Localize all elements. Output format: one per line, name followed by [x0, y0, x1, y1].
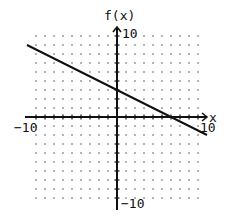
grid-dot [71, 89, 73, 91]
grid-dot [152, 98, 154, 100]
grid-dot [35, 197, 37, 199]
grid-dot [53, 170, 55, 172]
grid-dot [107, 80, 109, 82]
grid-dot [125, 143, 127, 145]
grid-dot [125, 125, 127, 127]
grid-dot [134, 53, 136, 55]
grid-dot [44, 35, 46, 37]
grid-dot [62, 53, 64, 55]
grid-dot [53, 71, 55, 73]
grid-dot [188, 179, 190, 181]
grid-dot [44, 179, 46, 181]
grid-dot [179, 53, 181, 55]
grid-dot [143, 170, 145, 172]
grid-dot [179, 197, 181, 199]
grid-dot [80, 89, 82, 91]
grid-dot [179, 44, 181, 46]
grid-dot [71, 161, 73, 163]
grid-dot [188, 62, 190, 64]
grid-dot [170, 125, 172, 127]
grid-dot [35, 143, 37, 145]
grid-dot [80, 125, 82, 127]
grid-dot [71, 35, 73, 37]
grid-dot [107, 134, 109, 136]
grid-dot [107, 35, 109, 37]
grid-dot [143, 35, 145, 37]
y-max-tick-label: 10 [122, 26, 138, 41]
grid-dot [134, 134, 136, 136]
grid-dot [143, 107, 145, 109]
grid-dot [197, 98, 199, 100]
grid-dot [161, 35, 163, 37]
grid-dot [71, 71, 73, 73]
grid-dot [134, 89, 136, 91]
x-max-tick-label: 10 [200, 120, 216, 135]
grid-dot [134, 179, 136, 181]
grid-dot [179, 62, 181, 64]
grid-dot [62, 107, 64, 109]
grid-dot [71, 107, 73, 109]
grid-dot [179, 179, 181, 181]
grid-dot [179, 143, 181, 145]
grid-dot [188, 152, 190, 154]
grid-dot [152, 152, 154, 154]
grid-dot [89, 161, 91, 163]
grid-dot [35, 71, 37, 73]
grid-dot [161, 179, 163, 181]
grid-dot [53, 98, 55, 100]
grid-dot [107, 179, 109, 181]
grid-dot [98, 188, 100, 190]
grid-dot [107, 44, 109, 46]
grid-dot [89, 71, 91, 73]
grid-dot [98, 107, 100, 109]
grid-dot [161, 170, 163, 172]
grid-dot [197, 152, 199, 154]
grid-dot [134, 107, 136, 109]
coordinate-plane: f(x) x 10 −10 −10 10 [0, 0, 228, 222]
grid-dot [152, 89, 154, 91]
grid-dot [98, 98, 100, 100]
grid-dot [80, 143, 82, 145]
grid-dot [125, 107, 127, 109]
grid-dot [188, 143, 190, 145]
grid-dot [134, 62, 136, 64]
grid-dot [125, 179, 127, 181]
grid-dot [152, 170, 154, 172]
grid-dot [125, 170, 127, 172]
grid-dot [197, 161, 199, 163]
grid-dot [62, 179, 64, 181]
grid-dot [71, 62, 73, 64]
grid-dot [98, 53, 100, 55]
grid-dot [98, 179, 100, 181]
grid-dot [152, 197, 154, 199]
grid-dot [161, 107, 163, 109]
grid-dot [161, 161, 163, 163]
grid-dot [80, 170, 82, 172]
grid-dot [44, 134, 46, 136]
grid-dot [134, 152, 136, 154]
grid-dot [179, 161, 181, 163]
grid-dot [44, 152, 46, 154]
grid-dot [188, 53, 190, 55]
grid-dot [125, 80, 127, 82]
grid-dot [125, 98, 127, 100]
grid-dot [44, 89, 46, 91]
grid-dot [161, 197, 163, 199]
grid-dot [107, 143, 109, 145]
grid-dot [152, 71, 154, 73]
grid-dot [62, 44, 64, 46]
grid-dot [71, 143, 73, 145]
grid-dot [143, 89, 145, 91]
grid-dot [80, 44, 82, 46]
grid-dot [35, 170, 37, 172]
grid-dot [170, 170, 172, 172]
grid-dot [44, 170, 46, 172]
grid-dot [80, 134, 82, 136]
grid-dot [35, 107, 37, 109]
grid-dot [35, 161, 37, 163]
grid-dot [71, 134, 73, 136]
grid-dot [44, 62, 46, 64]
grid-dot [188, 170, 190, 172]
grid-dot [98, 71, 100, 73]
grid-dot [170, 98, 172, 100]
